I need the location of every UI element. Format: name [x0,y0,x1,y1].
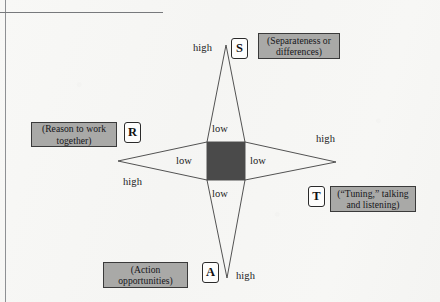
axis-label-high-top: high [193,43,212,54]
axis-label-low-top: low [212,124,228,135]
caption-r-line-1: (Reason to work [42,123,106,134]
caption-box-t: (“Tuning,” talking and listening) [330,186,416,212]
letter-box-s: S [231,38,248,59]
letter-box-t: T [308,186,325,207]
axis-label-low-bottom: low [212,189,228,200]
caption-a-line-2: opportunities) [118,275,173,286]
center-square [207,142,245,180]
axis-label-high-right: high [316,134,335,145]
star-diagram-graphic [0,0,440,302]
caption-s-line-1: (Separateness or [267,35,331,46]
caption-r-line-2: together) [42,135,106,146]
caption-a-line-1: (Action [118,264,173,275]
caption-s-line-2: differences) [267,46,331,57]
triangle-r [118,142,207,180]
caption-t-line-1: (“Tuning,” talking [337,188,408,199]
axis-label-low-right: low [250,156,266,167]
caption-box-a: (Action opportunities) [103,262,188,288]
axis-label-high-bottom: high [236,271,255,282]
axis-label-high-left: high [123,177,142,188]
figure-page: high high high high low low low low S T … [0,0,440,302]
caption-box-s: (Separateness or differences) [258,33,340,59]
caption-t-line-2: and listening) [337,199,408,210]
caption-box-r: (Reason to work together) [31,122,117,147]
letter-box-r: R [124,122,141,143]
axis-label-low-left: low [176,156,192,167]
letter-box-a: A [202,262,219,283]
